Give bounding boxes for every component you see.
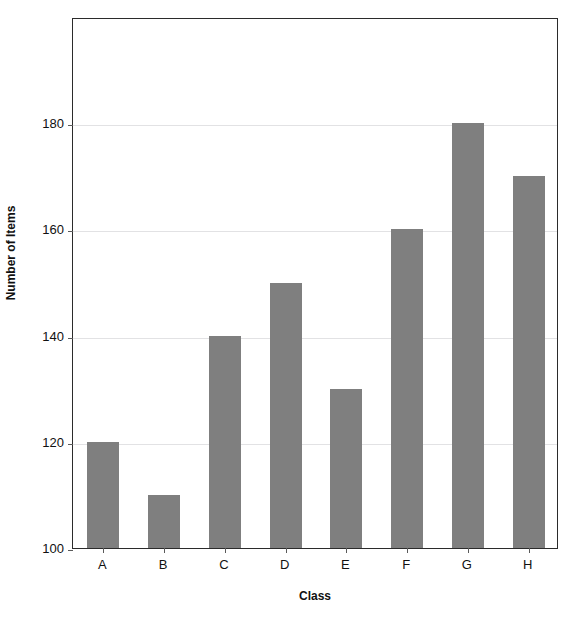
y-tick-mark-180 xyxy=(68,125,73,126)
bar-f xyxy=(391,229,423,548)
y-tick-label: 120 xyxy=(24,436,64,449)
bar-c xyxy=(209,336,241,548)
plot-area xyxy=(72,18,558,549)
x-tick-label-a: A xyxy=(82,557,122,572)
gridline-y-120 xyxy=(73,444,557,445)
y-tick-label: 140 xyxy=(24,330,64,343)
y-tick-mark-140 xyxy=(68,338,73,339)
x-tick-mark-g xyxy=(468,548,469,553)
gridline-y-180 xyxy=(73,125,557,126)
bar-g xyxy=(452,123,484,548)
gridline-y-140 xyxy=(73,338,557,339)
x-tick-mark-a xyxy=(103,548,104,553)
x-tick-mark-b xyxy=(164,548,165,553)
x-tick-label-h: H xyxy=(508,557,548,572)
y-axis-title: Number of Items xyxy=(4,180,18,326)
x-tick-mark-h xyxy=(529,548,530,553)
y-tick-label: 100 xyxy=(24,542,64,555)
y-tick-mark-100 xyxy=(68,550,73,551)
x-tick-label-c: C xyxy=(204,557,244,572)
x-tick-mark-c xyxy=(225,548,226,553)
y-tick-mark-120 xyxy=(68,444,73,445)
x-tick-label-d: D xyxy=(265,557,305,572)
y-tick-mark-160 xyxy=(68,231,73,232)
y-tick-label: 180 xyxy=(24,117,64,130)
gridline-y-160 xyxy=(73,231,557,232)
x-tick-mark-d xyxy=(286,548,287,553)
x-tick-mark-e xyxy=(346,548,347,553)
bar-a xyxy=(87,442,119,548)
x-axis-title: Class xyxy=(72,589,558,603)
x-tick-label-b: B xyxy=(143,557,183,572)
bar-e xyxy=(330,389,362,548)
x-tick-mark-f xyxy=(407,548,408,553)
bar-d xyxy=(270,283,302,549)
x-tick-label-f: F xyxy=(386,557,426,572)
x-tick-label-g: G xyxy=(447,557,487,572)
bar-chart-figure: Number of Items 100120140160180 ABCDEFGH… xyxy=(0,0,578,618)
y-tick-label: 160 xyxy=(24,223,64,236)
bar-b xyxy=(148,495,180,548)
bar-h xyxy=(513,176,545,548)
x-tick-label-e: E xyxy=(325,557,365,572)
chart-title xyxy=(0,0,578,5)
